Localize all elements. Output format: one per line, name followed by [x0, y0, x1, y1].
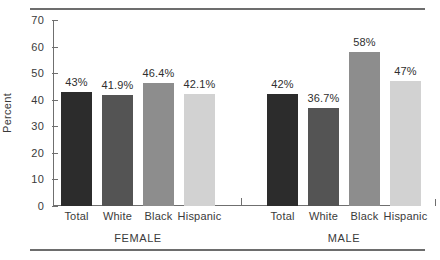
group-label-female: FEMALE — [114, 232, 162, 244]
bar-value-label: 46.4% — [142, 67, 174, 79]
y-axis-tick-label: 10 — [31, 173, 44, 185]
bar-male-black[interactable]: 58% — [349, 52, 380, 206]
bar-value-label: 43% — [65, 76, 88, 88]
y-axis-tick-label: 20 — [31, 147, 44, 159]
y-axis-title: Percent — [1, 93, 13, 133]
bottom-divider-rule — [30, 249, 425, 251]
group-separator-tick — [241, 198, 242, 206]
x-axis-category-label: Total — [64, 210, 88, 222]
bar-male-white[interactable]: 36.7% — [308, 108, 339, 206]
y-axis-tick — [52, 206, 58, 207]
bar-female-total[interactable]: 43% — [61, 92, 92, 206]
bar-value-label: 42% — [271, 78, 294, 90]
bar-female-hispanic[interactable]: 42.1% — [184, 94, 215, 206]
y-axis-tick-label: 0 — [38, 200, 44, 212]
y-axis-tick-label: 30 — [31, 120, 44, 132]
bar-value-label: 41.9% — [101, 79, 133, 91]
bar-male-hispanic[interactable]: 47% — [390, 81, 421, 206]
y-axis-tick — [52, 179, 58, 180]
x-axis-category-label: Total — [270, 210, 294, 222]
x-axis-category-label: White — [103, 210, 132, 222]
y-axis-tick — [52, 100, 58, 101]
x-axis-category-label: Hispanic — [178, 210, 222, 222]
bar-female-black[interactable]: 46.4% — [143, 83, 174, 206]
y-axis-tick — [52, 73, 58, 74]
y-axis-tick-label: 50 — [31, 67, 44, 79]
y-axis-tick — [52, 20, 58, 21]
y-axis-tick — [52, 126, 58, 127]
bar-female-white[interactable]: 41.9% — [102, 95, 133, 206]
x-axis-end-tick — [435, 199, 436, 206]
y-axis-tick-label: 60 — [31, 41, 44, 53]
plot-area: Percent 01020304050607043%Total41.9%Whit… — [53, 20, 415, 206]
y-axis-line — [53, 20, 54, 206]
bar-chart-figure: Percent 01020304050607043%Total41.9%Whit… — [0, 0, 440, 260]
bar-value-label: 58% — [353, 36, 376, 48]
x-axis-category-label: Black — [351, 210, 379, 222]
group-label-male: MALE — [328, 232, 360, 244]
bar-value-label: 36.7% — [307, 92, 339, 104]
y-axis-tick — [52, 153, 58, 154]
y-axis-tick-label: 70 — [31, 14, 44, 26]
x-axis-category-label: Hispanic — [384, 210, 428, 222]
x-axis-category-label: Black — [145, 210, 173, 222]
bar-value-label: 42.1% — [183, 78, 215, 90]
y-axis-tick — [52, 47, 58, 48]
top-divider-rule — [30, 8, 425, 10]
x-axis-category-label: White — [309, 210, 338, 222]
y-axis-tick-label: 40 — [31, 94, 44, 106]
bar-value-label: 47% — [394, 65, 417, 77]
bar-male-total[interactable]: 42% — [267, 94, 298, 206]
